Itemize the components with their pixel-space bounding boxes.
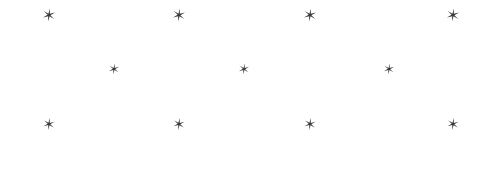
star-icon <box>109 64 120 75</box>
star-icon <box>384 64 395 75</box>
star-icon <box>304 9 317 22</box>
star-icon <box>173 118 185 130</box>
star-icon <box>447 9 460 22</box>
star-icon <box>43 118 55 130</box>
star-icon <box>304 118 316 130</box>
star-icon <box>173 9 186 22</box>
star-icon <box>43 9 56 22</box>
star-pattern-canvas <box>0 0 502 176</box>
star-icon <box>447 118 459 130</box>
star-icon <box>239 64 250 75</box>
